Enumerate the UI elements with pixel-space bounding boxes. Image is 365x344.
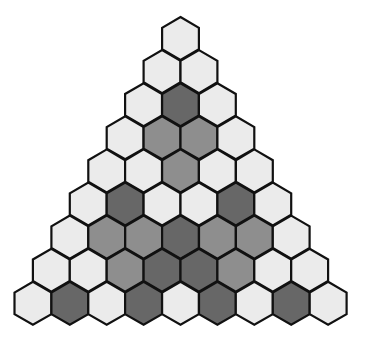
hex-cell-light (310, 282, 347, 325)
hex-row-5 (88, 149, 272, 192)
hex-cell-dark (273, 282, 310, 325)
hex-cell-light (88, 282, 125, 325)
hex-cell-light (162, 282, 199, 325)
hex-cell-dark (199, 282, 236, 325)
hex-cell-dark (51, 282, 88, 325)
hexagon-triangle-diagram (0, 0, 365, 344)
hex-cell-dark (125, 282, 162, 325)
hex-row-9 (15, 282, 347, 325)
hex-row-3 (125, 83, 236, 126)
hex-cell-light (236, 282, 273, 325)
hex-cell-light (15, 282, 52, 325)
